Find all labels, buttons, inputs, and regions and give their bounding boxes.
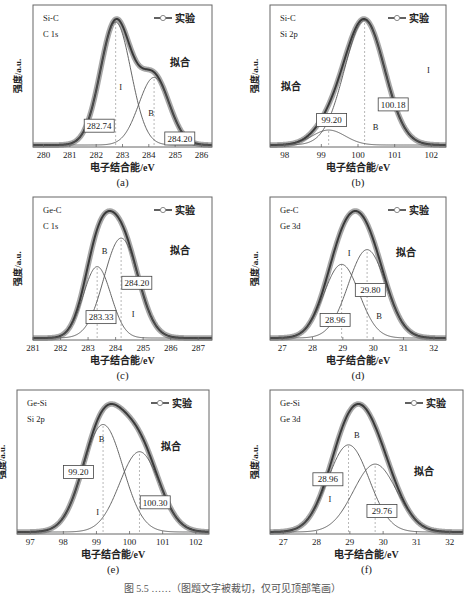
x-tick-label: 102	[425, 150, 439, 160]
orbital-label: Si 2p	[27, 414, 45, 424]
x-axis-label: 电子结合能/eV	[334, 548, 399, 560]
legend-label: 实验	[409, 12, 430, 24]
legend-label: 实验	[426, 397, 447, 409]
peak-value: 284.20	[124, 278, 149, 288]
legend-marker-icon	[394, 15, 399, 20]
fit-annotation: 拟合	[281, 80, 302, 92]
x-tick-label: 99	[92, 537, 102, 547]
x-tick-label: 284	[142, 150, 156, 160]
legend: 实验	[154, 12, 196, 24]
x-tick-label: 285	[136, 343, 150, 353]
component-curve-I	[33, 22, 212, 145]
x-tick-label: 286	[195, 150, 209, 160]
x-tick-label: 282	[54, 343, 68, 353]
panel-sublabel: (c)	[103, 369, 143, 381]
legend-label: 实验	[175, 204, 196, 216]
x-tick-label: 101	[388, 150, 402, 160]
y-axis-label: 强度/a.u.	[0, 445, 7, 480]
xps-panel-b: 9899100101102电子结合能/eV强度/a.u.Si-CSi 2p实验I…	[270, 5, 446, 147]
experiment-curve	[33, 19, 212, 145]
orbital-label: C 1s	[43, 29, 58, 39]
legend: 实验	[388, 204, 430, 216]
peak-value-box: 284.20	[165, 132, 195, 145]
xps-panel-f: 272829303132电子结合能/eV强度/a.u.Ge-SiGe 3d实验B…	[270, 390, 463, 534]
y-axis-label: 强度/a.u.	[12, 251, 23, 286]
sample-label: Si-C	[43, 13, 59, 23]
x-axis-label: 电子结合能/eV	[90, 354, 155, 366]
component-annotation-B: B	[102, 246, 108, 256]
fit-annotation: 拟合	[396, 246, 417, 258]
x-tick-label: 30	[379, 537, 389, 547]
panel-sublabel: (a)	[103, 176, 143, 188]
panel-sublabel: (d)	[338, 369, 378, 381]
fit-annotation: 拟合	[161, 440, 182, 452]
x-tick-label: 100	[123, 537, 137, 547]
peak-value: 99.20	[68, 467, 89, 477]
y-axis-label: 强度/a.u.	[249, 251, 260, 286]
x-tick-label: 27	[278, 343, 288, 353]
legend: 实验	[154, 204, 196, 216]
x-tick-label: 284	[109, 343, 123, 353]
component-annotation-B: B	[373, 122, 379, 132]
x-tick-label: 32	[429, 343, 438, 353]
legend-label: 实验	[172, 397, 193, 409]
peak-value-box: 28.96	[313, 473, 343, 486]
orbital-label: Ge 3d	[280, 414, 301, 424]
orbital-label: Si 2p	[280, 29, 298, 39]
component-curve-B	[270, 264, 446, 338]
x-tick-label: 31	[412, 537, 421, 547]
peak-value-box: 29.76	[367, 504, 397, 517]
plot-area: 9899100101102电子结合能/eV强度/a.u.Si-CSi 2p实验I…	[270, 5, 446, 147]
plot-area: 281282283284285286287电子结合能/eV强度/a.u.Ge-C…	[33, 197, 212, 340]
plot-area: 280281282283284285286电子结合能/eV强度/a.u.Si-C…	[33, 5, 212, 147]
x-tick-label: 28	[312, 537, 322, 547]
x-axis-label: 电子结合能/eV	[90, 161, 155, 173]
component-curve-B	[270, 445, 463, 532]
sample-label: Si-C	[280, 13, 296, 23]
panel-sublabel: (e)	[93, 563, 133, 575]
x-tick-label: 99	[317, 150, 327, 160]
x-tick-label: 29	[345, 537, 355, 547]
peak-value-box: 100.18	[378, 98, 408, 111]
legend-marker-icon	[160, 207, 165, 212]
plot-frame	[270, 197, 446, 340]
sample-label: Ge-Si	[27, 398, 47, 408]
peak-value: 28.96	[318, 474, 339, 484]
legend: 实验	[151, 397, 193, 409]
peak-value-box: 99.20	[63, 466, 93, 479]
legend-label: 实验	[409, 204, 430, 216]
legend: 实验	[388, 12, 430, 24]
peak-value-box: 284.20	[122, 276, 152, 289]
component-annotation-B: B	[99, 434, 105, 444]
experiment-curve	[17, 404, 209, 532]
x-tick-label: 281	[26, 343, 40, 353]
x-tick-label: 282	[89, 150, 103, 160]
peak-value: 29.76	[372, 506, 393, 516]
peak-value: 99.20	[321, 115, 342, 125]
x-tick-label: 31	[399, 343, 408, 353]
component-annotation-I: I	[96, 507, 99, 517]
orbital-label: C 1s	[43, 221, 58, 231]
component-annotation-B: B	[376, 311, 382, 321]
orbital-label: Ge 3d	[280, 221, 301, 231]
peak-value: 282.74	[87, 121, 112, 131]
x-axis-label: 电子结合能/eV	[326, 354, 391, 366]
peak-value: 100.30	[143, 498, 168, 508]
peak-value: 28.96	[325, 315, 346, 325]
plot-area: 272829303132电子结合能/eV强度/a.u.Ge-SiGe 3d实验B…	[270, 390, 463, 534]
x-tick-label: 100	[351, 150, 365, 160]
plot-frame	[17, 390, 209, 534]
component-annotation-I: I	[427, 65, 430, 75]
legend-marker-icon	[394, 207, 399, 212]
x-tick-label: 286	[164, 343, 178, 353]
y-axis-label: 强度/a.u.	[249, 59, 260, 94]
peak-value: 283.33	[89, 312, 114, 322]
xps-panel-d: 272829303132电子结合能/eV强度/a.u.Ge-CGe 3d实验IB…	[270, 197, 446, 340]
x-tick-label: 98	[280, 150, 290, 160]
peak-value-box: 283.33	[86, 311, 116, 324]
panel-sublabel: (b)	[338, 176, 378, 188]
peak-value: 100.18	[381, 100, 406, 110]
xps-panel-e: 979899100101102电子结合能/eV强度/a.u.Ge-SiSi 2p…	[17, 390, 209, 534]
plot-frame	[33, 197, 212, 340]
fit-annotation: 拟合	[170, 56, 191, 68]
